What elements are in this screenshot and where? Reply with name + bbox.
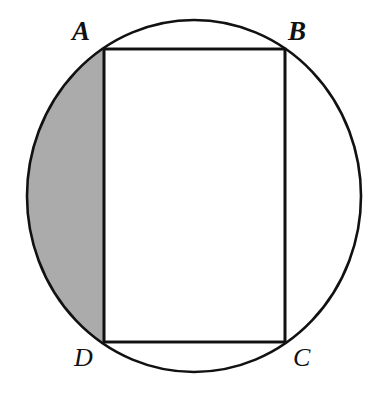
vertex-label-a: A — [72, 18, 90, 45]
vertex-label-b: B — [288, 18, 306, 45]
inscribed-rectangle-ABCD — [104, 49, 285, 342]
vertex-label-c: C — [293, 345, 310, 371]
geometry-figure: A B C D — [0, 0, 377, 393]
vertex-label-d: D — [74, 345, 93, 371]
geometry-canvas — [0, 0, 377, 393]
